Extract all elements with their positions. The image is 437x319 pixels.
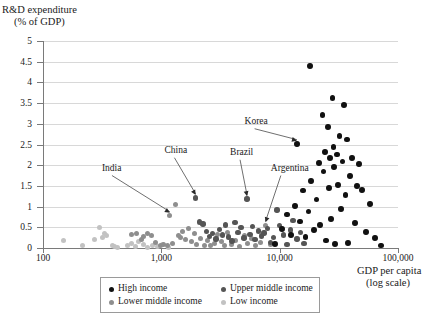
data-point bbox=[320, 112, 326, 118]
x-tick-label: 100,000 bbox=[368, 253, 428, 264]
annotation-label: Brazil bbox=[230, 147, 253, 157]
annotation-label: China bbox=[164, 145, 187, 155]
data-point bbox=[322, 149, 328, 155]
legend-label-high-income: High income bbox=[118, 283, 167, 294]
y-tick-label: 4.5 bbox=[0, 57, 32, 67]
data-point bbox=[244, 196, 249, 201]
legend-label-low-income: Low income bbox=[230, 296, 278, 307]
data-point bbox=[325, 124, 331, 130]
chart-figure: R&D expenditure (% of GDP) GDP per capit… bbox=[0, 0, 437, 319]
x-axis-label-line1: GDP per capita bbox=[357, 265, 421, 277]
data-point bbox=[193, 195, 198, 200]
data-point bbox=[235, 230, 240, 235]
data-point bbox=[241, 235, 246, 240]
data-point bbox=[223, 222, 228, 227]
x-axis-label-line2: (log scale) bbox=[366, 277, 410, 289]
data-point bbox=[328, 216, 334, 222]
data-point bbox=[232, 220, 237, 225]
data-point bbox=[297, 219, 303, 225]
legend-swatch-low-income bbox=[221, 300, 226, 305]
y-tick-label: 1.5 bbox=[0, 181, 32, 191]
data-point bbox=[145, 245, 150, 250]
annotation-label: Argentina bbox=[271, 163, 309, 173]
data-point bbox=[341, 102, 347, 108]
data-point bbox=[311, 227, 317, 233]
data-point bbox=[149, 233, 154, 238]
y-tick-label: 0.5 bbox=[0, 222, 32, 232]
data-point bbox=[80, 243, 85, 248]
data-point bbox=[198, 236, 203, 241]
annotation-label: Korea bbox=[245, 116, 268, 126]
legend-swatch-high-income bbox=[109, 287, 114, 292]
data-point bbox=[338, 206, 344, 212]
plot-area bbox=[43, 41, 398, 248]
data-point bbox=[247, 232, 252, 237]
data-point bbox=[272, 241, 278, 247]
data-point bbox=[202, 243, 207, 248]
data-point bbox=[200, 221, 205, 226]
data-point bbox=[173, 202, 178, 207]
y-tick-label: 3.5 bbox=[0, 98, 32, 108]
data-point bbox=[229, 238, 234, 243]
data-point bbox=[165, 243, 170, 248]
data-point bbox=[303, 234, 309, 240]
data-point bbox=[261, 230, 266, 235]
y-tick-label: 0 bbox=[0, 243, 32, 253]
data-point bbox=[359, 187, 365, 193]
data-point bbox=[334, 152, 340, 158]
x-axis-line bbox=[43, 248, 398, 249]
data-point bbox=[212, 241, 217, 246]
x-tick-label: 100 bbox=[13, 253, 73, 264]
data-point bbox=[61, 238, 66, 243]
y-tick-label: 3 bbox=[0, 119, 32, 129]
y-axis-label-line2: (% of GDP) bbox=[14, 16, 65, 28]
data-point bbox=[316, 160, 322, 166]
data-point bbox=[279, 226, 285, 232]
data-point bbox=[213, 236, 218, 241]
data-point bbox=[97, 225, 102, 230]
data-point bbox=[337, 133, 343, 139]
chart-legend: High incomeUpper middle incomeLower midd… bbox=[100, 277, 320, 313]
data-point bbox=[238, 225, 243, 230]
data-point bbox=[186, 226, 191, 231]
annotation-label: India bbox=[102, 163, 122, 173]
data-point bbox=[301, 241, 306, 246]
data-point bbox=[134, 231, 139, 236]
data-point bbox=[349, 155, 355, 161]
x-tick-label: 1,000 bbox=[131, 253, 191, 264]
y-tick-label: 2 bbox=[0, 160, 32, 170]
x-tick-label: 10,000 bbox=[250, 253, 310, 264]
data-point bbox=[344, 137, 350, 143]
y-tick-label: 2.5 bbox=[0, 140, 32, 150]
legend-swatch-upper-middle-income bbox=[221, 287, 226, 292]
data-point bbox=[327, 155, 333, 161]
legend-label-lower-middle-income: Lower middle income bbox=[118, 296, 202, 307]
data-point bbox=[284, 212, 290, 218]
y-tick-label: 4 bbox=[0, 77, 32, 87]
data-point bbox=[331, 144, 337, 150]
data-point bbox=[308, 178, 314, 184]
y-axis-label-line1: R&D expenditure bbox=[2, 4, 77, 16]
data-point bbox=[288, 232, 294, 238]
data-point bbox=[294, 141, 300, 147]
data-point bbox=[274, 207, 279, 212]
data-point bbox=[180, 229, 185, 234]
data-point bbox=[294, 236, 299, 241]
data-point bbox=[307, 63, 313, 69]
legend-swatch-lower-middle-income bbox=[109, 300, 114, 305]
data-point bbox=[92, 237, 97, 242]
data-point bbox=[335, 182, 341, 188]
data-point bbox=[284, 242, 289, 247]
data-point bbox=[326, 185, 332, 191]
data-point bbox=[352, 220, 358, 226]
data-point bbox=[323, 238, 329, 244]
y-tick-label: 5 bbox=[0, 36, 32, 46]
data-point bbox=[347, 173, 353, 179]
data-point bbox=[372, 235, 378, 241]
y-tick-label: 1 bbox=[0, 202, 32, 212]
data-point bbox=[367, 201, 373, 207]
data-point bbox=[133, 244, 138, 249]
legend-label-upper-middle-income: Upper middle income bbox=[230, 283, 313, 294]
